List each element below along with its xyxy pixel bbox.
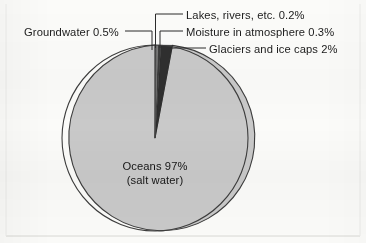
slice-label-groundwater: Groundwater 0.5% [24,26,119,39]
slice-label-lakes-rivers-etc: Lakes, rivers, etc. 0.2% [186,9,305,22]
slice-label-oceans: Oceans 97% (salt water) [92,160,218,187]
slice-label-glaciers-and-ice-caps: Glaciers and ice caps 2% [209,43,338,56]
slice-label-oceans-primary: Oceans 97% [92,160,218,174]
slice-label-oceans-secondary: (salt water) [92,174,218,188]
slice-label-moisture-in-atmosphere: Moisture in atmosphere 0.3% [186,26,334,39]
pie-chart-figure: Groundwater 0.5% Lakes, rivers, etc. 0.2… [0,0,366,243]
